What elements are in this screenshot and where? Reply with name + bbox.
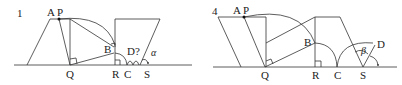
label-r: R (112, 68, 120, 80)
label-d: D? (127, 45, 140, 57)
label-angle-alpha: α (151, 47, 157, 58)
label-c: C (334, 69, 341, 81)
label-q: Q (261, 69, 269, 81)
label-a: A (47, 6, 55, 18)
label-a: A (233, 4, 241, 16)
arc-d (127, 61, 139, 65)
arc-bc (315, 43, 337, 67)
right-angle-mark-r (115, 60, 120, 65)
label-d: D (377, 38, 385, 50)
rotation-arrow-arc (370, 56, 378, 65)
arrow-tip (377, 64, 379, 66)
right-angle-mark-r (315, 61, 321, 67)
trapezoid-left (27, 19, 70, 65)
segment-pq (244, 17, 265, 67)
label-b: B (304, 36, 311, 48)
label-angle-beta: β (360, 45, 366, 56)
label-r: R (312, 69, 320, 81)
panel-1: 1 A P B Q R C (14, 6, 192, 80)
arc-pb (59, 18, 115, 45)
arrow-tip (147, 62, 149, 64)
panel-4: 4 A P B Q (212, 4, 397, 81)
segment-pq (59, 19, 70, 65)
panel-number: 1 (17, 7, 23, 19)
label-b: B (104, 43, 111, 55)
label-c: C (124, 68, 131, 80)
label-s: S (144, 68, 150, 80)
trapezoid-right (115, 19, 160, 65)
angle-arc-alpha (142, 59, 148, 63)
arc-bc (115, 53, 127, 65)
parallelogram-left (218, 17, 266, 67)
label-p: P (57, 6, 63, 18)
label-q: Q (66, 68, 74, 80)
panel-number: 4 (212, 5, 218, 17)
geometry-diagram: 1 A P B Q R C (0, 0, 402, 85)
label-s: S (360, 69, 366, 81)
label-p: P (243, 4, 249, 16)
arc-cd (337, 43, 373, 67)
